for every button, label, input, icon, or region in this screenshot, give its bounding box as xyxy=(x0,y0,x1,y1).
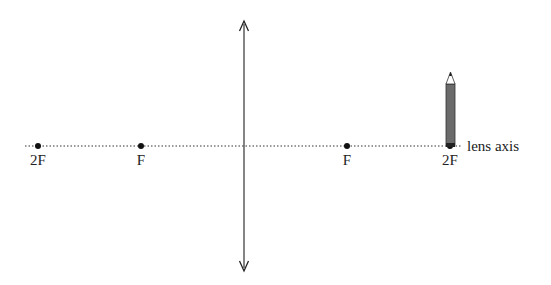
lens-diagram: 2F F F 2F lens axis xyxy=(0,0,551,285)
svg-text:F: F xyxy=(343,152,351,168)
focal-point-F-left: F xyxy=(137,143,145,168)
pencil-object xyxy=(446,72,455,147)
converging-lens xyxy=(240,21,249,271)
focal-point-2F-left: 2F xyxy=(30,143,46,168)
svg-text:2F: 2F xyxy=(442,152,458,168)
focal-point-F-right: F xyxy=(343,143,351,168)
svg-text:F: F xyxy=(137,152,145,168)
lens-axis-label: lens axis xyxy=(467,138,519,154)
svg-text:2F: 2F xyxy=(30,152,46,168)
